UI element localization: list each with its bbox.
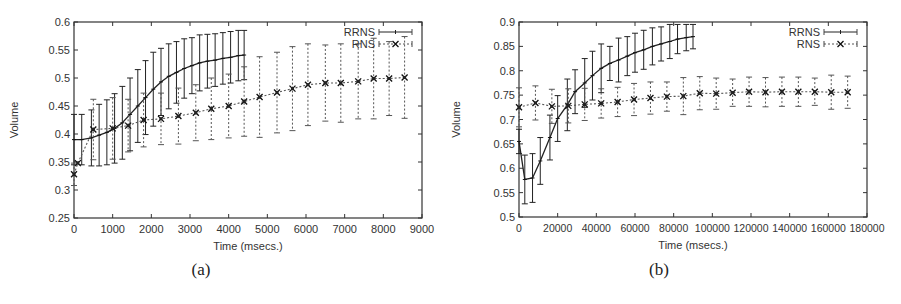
figure-a: 0.250.30.350.40.450.50.550.6010002000300… <box>0 0 450 304</box>
x-marker-center <box>633 98 636 101</box>
y-tick-label: 0.7 <box>500 114 515 126</box>
x-marker-center <box>160 117 163 120</box>
y-tick-label: 0.9 <box>500 16 515 28</box>
x-marker-center <box>177 115 180 118</box>
legend-label: RRNS <box>344 26 375 38</box>
x-marker-center <box>764 91 767 94</box>
x-axis-label: Time (msecs.) <box>658 239 727 251</box>
y-tick-label: 0.3 <box>55 184 70 196</box>
y-tick-label: 0.55 <box>49 44 70 56</box>
y-tick-label: 0.4 <box>55 128 70 140</box>
y-tick-label: 0.55 <box>494 187 515 199</box>
legend: RRNSRNS <box>789 26 857 50</box>
x-marker-center <box>339 82 342 85</box>
series-rns <box>71 37 408 186</box>
x-marker-center <box>76 162 79 165</box>
legend: RRNSRNS <box>344 26 412 50</box>
x-tick-label: 120000 <box>733 222 768 234</box>
figure-b: 0.50.550.60.650.70.750.80.850.9020000400… <box>450 0 900 304</box>
x-marker-center <box>682 95 685 98</box>
x-tick-label: 3000 <box>178 223 202 235</box>
x-marker-center <box>388 77 391 80</box>
x-marker-center <box>227 105 230 108</box>
legend-label: RNS <box>797 38 820 50</box>
x-tick-label: 160000 <box>811 222 846 234</box>
x-marker-center <box>567 104 570 107</box>
x-marker-center <box>748 90 751 93</box>
x-marker-center <box>550 105 553 108</box>
x-tick-label: 5000 <box>255 223 279 235</box>
x-marker-center <box>73 173 76 176</box>
x-marker-center <box>276 91 279 94</box>
x-marker-center <box>372 77 375 80</box>
plot-frame <box>519 22 867 217</box>
x-marker-center <box>127 124 130 127</box>
x-marker-center <box>534 101 537 104</box>
y-tick-label: 0.6 <box>500 162 515 174</box>
x-marker-center <box>403 76 406 79</box>
x-marker-center <box>600 102 603 105</box>
y-tick-label: 0.25 <box>49 212 70 224</box>
x-marker-center <box>111 127 114 130</box>
x-marker-center <box>616 100 619 103</box>
x-tick-label: 100000 <box>695 222 730 234</box>
series-rrns <box>71 30 247 166</box>
x-marker-center <box>243 100 246 103</box>
plot-frame <box>74 22 422 218</box>
x-tick-label: 20000 <box>543 222 572 234</box>
caption-a: (a) <box>0 260 426 280</box>
x-marker-center <box>583 103 586 106</box>
x-axis-label: Time (msecs.) <box>213 240 282 252</box>
y-tick-label: 0.35 <box>49 156 70 168</box>
y-axis-label: Volume <box>8 102 20 139</box>
x-marker-center <box>830 91 833 94</box>
x-marker-center <box>813 90 816 93</box>
x-tick-label: 60000 <box>620 222 649 234</box>
series-line <box>519 37 693 180</box>
x-tick-label: 2000 <box>139 223 163 235</box>
x-marker-center <box>698 92 701 95</box>
chart-b-plot: 0.50.550.60.650.70.750.80.850.9020000400… <box>450 0 900 260</box>
x-marker-center <box>210 107 213 110</box>
x-tick-label: 7000 <box>332 223 356 235</box>
x-marker-center <box>649 97 652 100</box>
y-tick-label: 0.75 <box>494 89 515 101</box>
series-rrns <box>516 24 696 203</box>
x-marker-center <box>357 80 360 83</box>
x-tick-label: 180000 <box>849 222 884 234</box>
legend-marker <box>393 41 399 47</box>
x-tick-label: 140000 <box>772 222 807 234</box>
x-tick-label: 4000 <box>216 223 240 235</box>
x-tick-label: 1000 <box>100 223 124 235</box>
y-tick-label: 0.8 <box>500 65 515 77</box>
x-marker-center <box>258 96 261 99</box>
x-marker-center <box>731 91 734 94</box>
x-marker-center <box>715 92 718 95</box>
x-tick-label: 80000 <box>659 222 688 234</box>
x-marker-center <box>92 128 95 131</box>
x-tick-label: 8000 <box>371 223 395 235</box>
y-tick-label: 0.45 <box>49 100 70 112</box>
x-tick-label: 0 <box>516 222 522 234</box>
y-tick-label: 0.6 <box>55 16 70 28</box>
x-marker-center <box>194 111 197 114</box>
y-tick-label: 0.5 <box>500 211 515 223</box>
y-tick-label: 0.5 <box>55 72 70 84</box>
series-rns <box>516 75 851 127</box>
x-marker-center <box>518 106 521 109</box>
y-tick-label: 0.65 <box>494 138 515 150</box>
x-marker-center <box>797 90 800 93</box>
legend-label: RRNS <box>789 26 820 38</box>
x-marker-center <box>142 119 145 122</box>
x-marker-center <box>780 90 783 93</box>
x-marker-center <box>846 91 849 94</box>
x-tick-label: 40000 <box>582 222 611 234</box>
y-tick-label: 0.85 <box>494 40 515 52</box>
x-tick-label: 6000 <box>294 223 318 235</box>
y-axis-label: Volume <box>450 101 462 138</box>
x-tick-label: 0 <box>71 223 77 235</box>
x-tick-label: 9000 <box>410 223 434 235</box>
series-line <box>74 77 405 174</box>
chart-a-plot: 0.250.30.350.40.450.50.550.6010002000300… <box>0 0 450 260</box>
x-marker-center <box>291 87 294 90</box>
